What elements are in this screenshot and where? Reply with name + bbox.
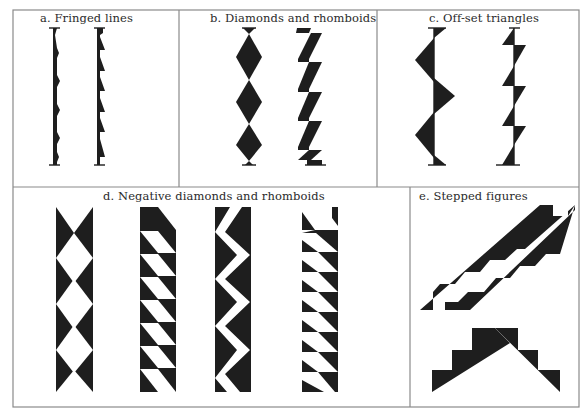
stepped-diagonal-band [420,205,575,310]
rhomboid-column [296,28,326,165]
figure-canvas [0,0,587,419]
negative-diamond-column [56,207,93,392]
panel-d-negative-diamonds-rhomboids [56,207,338,392]
diamond-column [236,28,262,165]
panel-title-c: c. Off-set triangles [429,11,539,25]
design-motif-figure: a. Fringed lines b. Diamonds and rhomboi… [0,0,587,419]
panel-a-fringed-lines [49,28,105,165]
panel-c-offset-triangles [415,28,526,165]
fringed-line-wavy [49,28,60,165]
negative-sawtooth-column [302,207,338,392]
panel-title-b: b. Diamonds and rhomboids [210,11,376,25]
stepped-pyramid [432,328,560,392]
panel-title-a: a. Fringed lines [40,11,133,25]
panel-title-d: d. Negative diamonds and rhomboids [103,189,325,203]
panel-e-stepped-figures [420,205,575,392]
negative-zigzag-column [215,207,251,392]
negative-rhomboid-column [140,207,176,392]
panel-b-diamonds-rhomboids [236,28,326,165]
fringed-line-sawtooth [94,28,105,165]
offset-triangle-column-small [496,28,526,165]
panel-title-e: e. Stepped figures [419,189,528,203]
offset-triangle-column-large [415,28,455,165]
